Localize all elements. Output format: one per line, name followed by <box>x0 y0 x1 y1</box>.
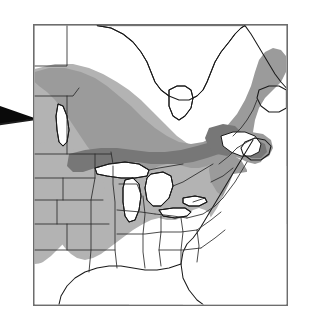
range-map-svg <box>33 24 288 306</box>
range-map-figure <box>0 0 313 326</box>
map-panel <box>33 24 288 306</box>
left-edge-arrow-icon <box>0 100 34 132</box>
